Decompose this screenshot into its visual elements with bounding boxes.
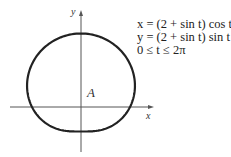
- region-label: A: [86, 85, 95, 100]
- equation-t-range: 0 ≤ t ≤ 2π: [137, 44, 186, 57]
- y-axis-label: y: [70, 6, 76, 17]
- y-axis-arrow: [79, 10, 83, 16]
- x-axis-label: x: [145, 110, 151, 121]
- x-axis-arrow: [148, 105, 154, 109]
